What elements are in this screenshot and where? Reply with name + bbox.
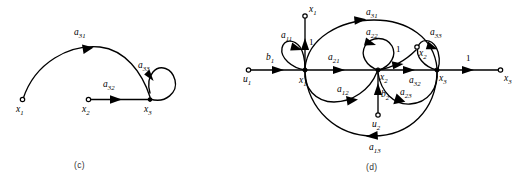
node-x3-out-d <box>498 68 502 72</box>
gain-x2-out-arrowhead <box>392 61 404 69</box>
node-label-x3-out-d: x3 <box>503 73 512 85</box>
node-label-x3-d: x3 <box>438 73 447 85</box>
edge-a32-arrowhead <box>110 95 122 103</box>
node-label-x1-out-d: x1 <box>308 4 317 16</box>
edge-b1-arrowhead <box>272 66 284 74</box>
gain-x3-out-arrowhead <box>462 66 474 74</box>
panel-c: x1 x2 x3 a31 a32 a33 (c) <box>15 27 175 170</box>
node-label-x2-out-d: x2 <box>418 48 427 60</box>
edge-label-a31-d: a31 <box>366 7 378 19</box>
node-x3-c <box>148 98 152 102</box>
edge-a33-path <box>149 68 176 100</box>
gain-label-x1-out: 1 <box>309 37 314 47</box>
panel-d: u1 u2 x1 x2 x3 x1 x2 x3 b1 b2 a11 a22 a3… <box>243 4 512 172</box>
node-x3-d <box>435 68 439 72</box>
node-label-u1-d: u1 <box>243 74 251 86</box>
node-label-x3-c: x3 <box>143 104 152 116</box>
edge-label-a12-d: a12 <box>337 84 349 96</box>
node-x1-d <box>303 68 307 72</box>
edge-a21-arrowhead <box>333 66 345 74</box>
gain-label-x2-out: 1 <box>396 44 401 54</box>
node-u2-d <box>376 113 380 117</box>
panel-d-caption: (d) <box>366 162 377 172</box>
edge-label-a23-d: a23 <box>400 87 412 99</box>
node-x1-out-d <box>303 14 307 18</box>
signal-flow-graph-figure: x1 x2 x3 a31 a32 a33 (c) <box>0 0 530 185</box>
edge-label-b1-d: b1 <box>266 52 274 64</box>
figure-root: x1 x2 x3 a31 a32 a33 (c) <box>0 0 530 185</box>
panel-c-caption: (c) <box>74 160 85 170</box>
node-label-u2-d: u2 <box>372 119 381 131</box>
edge-label-a33-d: a33 <box>430 27 442 39</box>
edge-label-a31-c: a31 <box>74 27 86 39</box>
edge-label-a21-d: a21 <box>328 52 340 64</box>
edge-label-a11-d: a11 <box>281 30 292 42</box>
node-label-x1-c: x1 <box>15 104 24 116</box>
gain-x1-out-arrowhead <box>301 38 309 50</box>
node-label-x2-c: x2 <box>81 104 90 116</box>
edge-label-a33-c: a33 <box>138 60 150 72</box>
node-label-x2-d: x2 <box>379 72 388 84</box>
edge-label-a13-d: a13 <box>369 142 381 154</box>
edge-label-a32-c: a32 <box>103 79 115 91</box>
node-u1-d <box>246 68 250 72</box>
edge-a31-path <box>23 47 150 99</box>
edge-label-a32-d: a32 <box>409 75 421 87</box>
edge-label-a22-d: a22 <box>366 27 378 39</box>
node-x1-c <box>20 97 24 101</box>
gain-label-x3-out: 1 <box>466 53 471 63</box>
node-x2-c <box>86 97 90 101</box>
edge-label-b2-d: b2 <box>381 89 390 101</box>
edge-a32-arrowhead-d <box>403 66 415 74</box>
